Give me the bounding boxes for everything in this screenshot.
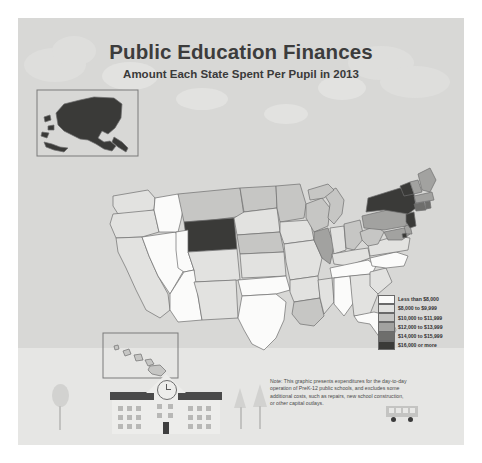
school-roof-left — [110, 392, 154, 400]
state-AR — [290, 276, 320, 302]
state-CT — [414, 202, 426, 211]
school-window — [118, 424, 123, 429]
legend-swatch — [378, 341, 395, 350]
legend-item: Less than $8,000 — [378, 295, 464, 304]
school-window — [118, 415, 123, 420]
school-window — [197, 406, 202, 411]
legend-label: $16,000 or more — [398, 342, 437, 348]
tree-icon — [253, 384, 267, 407]
legend-swatch — [378, 331, 395, 340]
state-OK — [238, 276, 290, 296]
legend-item: $10,000 to $11,999 — [378, 313, 464, 322]
state-KS — [240, 252, 286, 278]
clock-icon — [157, 380, 177, 400]
school-window — [118, 406, 123, 411]
state-NE — [237, 232, 284, 254]
legend-swatch — [378, 295, 395, 304]
tree-trunk — [240, 407, 242, 429]
state-MA — [414, 192, 434, 203]
school-window — [206, 424, 211, 429]
school-bus-window — [410, 408, 415, 413]
school-window — [188, 424, 193, 429]
tree-trunk — [59, 406, 61, 430]
state-AK-aleutians — [44, 142, 68, 152]
state-CO — [188, 249, 240, 282]
school-bus-window — [403, 408, 408, 413]
school-bus-window — [389, 408, 394, 413]
school-bus-window — [396, 408, 401, 413]
school-window — [168, 413, 173, 418]
school-window — [206, 406, 211, 411]
legend-item: $8,000 to $9,999 — [378, 304, 464, 313]
school-window — [206, 415, 211, 420]
state-LA — [292, 298, 324, 326]
school-window — [127, 415, 132, 420]
legend-label: $10,000 to $11,999 — [398, 315, 442, 321]
school-window — [188, 415, 193, 420]
legend-label: Less than $8,000 — [398, 296, 439, 302]
legend-label: $14,000 to $15,999 — [398, 333, 442, 339]
school-window — [157, 404, 162, 409]
school-window — [127, 406, 132, 411]
poster-panel: Public Education Finances Amount Each St… — [18, 18, 464, 445]
legend-item: $16,000 or more — [378, 341, 464, 350]
clock-hand-hour — [166, 389, 171, 390]
school-bus-wheel — [391, 417, 396, 422]
state-AK — [41, 97, 122, 151]
tree-icon — [234, 388, 246, 408]
state-MN — [276, 184, 306, 222]
school-window — [136, 406, 141, 411]
legend-item: $14,000 to $15,999 — [378, 332, 464, 341]
legend-label: $8,000 to $9,999 — [398, 305, 437, 311]
legend-item: $12,000 to $13,999 — [378, 323, 464, 332]
school-window — [168, 404, 173, 409]
school-window — [197, 424, 202, 429]
school-window — [157, 413, 162, 418]
state-ND — [240, 186, 277, 212]
tree-icon — [52, 384, 69, 407]
school-window — [127, 424, 132, 429]
school-window — [136, 424, 141, 429]
state-WY — [184, 218, 237, 252]
infographic-poster: Public Education Finances Amount Each St… — [0, 0, 482, 463]
school-window — [136, 415, 141, 420]
school-door — [163, 422, 169, 434]
legend-swatch — [378, 304, 395, 313]
map-legend: Less than $8,000 $8,000 to $9,999 $10,00… — [378, 295, 464, 350]
state-MT — [178, 188, 244, 222]
state-OR — [110, 210, 159, 238]
school-scene — [18, 366, 464, 445]
school-bus-wheel — [408, 417, 413, 422]
state-DC — [402, 233, 407, 238]
state-TX — [238, 294, 286, 350]
legend-swatch — [378, 313, 395, 322]
school-window — [197, 415, 202, 420]
state-RI — [425, 201, 431, 209]
school-roof-right — [178, 392, 222, 400]
school-window — [188, 406, 193, 411]
tree-trunk — [259, 406, 261, 429]
legend-label: $12,000 to $13,999 — [398, 324, 442, 330]
legend-swatch — [378, 322, 395, 331]
